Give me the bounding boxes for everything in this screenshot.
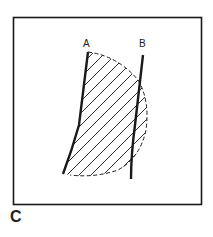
line-a [63, 52, 88, 174]
diagram-canvas: A B C [0, 0, 213, 237]
hatched-region [40, 0, 180, 237]
label-b: B [139, 38, 146, 49]
line-b [131, 55, 143, 179]
label-a: A [83, 38, 90, 49]
panel-label: C [10, 208, 22, 225]
